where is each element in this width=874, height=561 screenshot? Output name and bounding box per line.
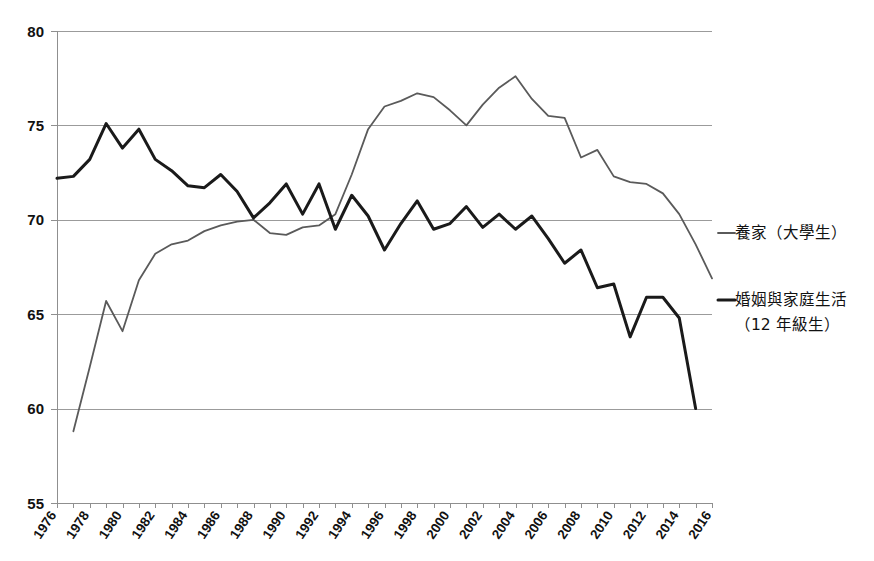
line-chart: 807570656055 197619781980198219841986198… (0, 0, 874, 561)
x-tick-label: 1992 (292, 508, 321, 541)
x-tick-label: 2012 (620, 508, 649, 541)
data-series-layer (57, 76, 712, 431)
gridlines (51, 32, 712, 504)
x-tick-label: 1986 (194, 508, 224, 542)
chart-canvas: 807570656055 197619781980198219841986198… (0, 0, 874, 561)
x-tick-label: 2008 (554, 508, 584, 542)
series-line-0 (73, 76, 712, 431)
x-tick-label: 1994 (325, 508, 355, 542)
legend-label: （12 年級生） (735, 316, 840, 334)
y-tick-label: 65 (27, 306, 44, 323)
x-tick-label: 2014 (652, 508, 682, 542)
x-tick-label: 2000 (423, 508, 452, 541)
x-axis-tick-labels: 1976197819801982198419861988199019921994… (30, 508, 715, 542)
x-tick-label: 2016 (685, 508, 715, 542)
axis-lines (57, 31, 712, 504)
x-tick-label: 1984 (161, 508, 191, 542)
x-tick-label: 2010 (587, 508, 616, 541)
x-tick-label: 2004 (489, 508, 519, 542)
x-tick-label: 2002 (456, 508, 485, 541)
chart-legend: 養家（大學生）婚姻與家庭生活（12 年級生） (718, 223, 847, 334)
x-tick-label: 1978 (63, 508, 93, 542)
legend-label: 養家（大學生） (735, 223, 847, 242)
x-tick-label: 1990 (259, 508, 288, 541)
y-axis-tick-labels: 807570656055 (27, 23, 44, 512)
y-tick-label: 80 (27, 23, 44, 40)
x-tick-label: 1982 (128, 508, 157, 541)
series-line-1 (57, 124, 696, 409)
x-tick-label: 1980 (96, 508, 125, 541)
legend-label: 婚姻與家庭生活 (735, 291, 847, 309)
x-tick-label: 1976 (30, 508, 60, 542)
x-tick-label: 1996 (358, 508, 388, 542)
x-tick-label: 1998 (390, 508, 420, 542)
x-tick-label: 1988 (227, 508, 257, 542)
x-tick-label: 2006 (521, 508, 551, 542)
y-tick-label: 55 (27, 495, 44, 512)
y-tick-label: 60 (27, 400, 44, 417)
y-tick-label: 75 (27, 117, 44, 134)
y-tick-label: 70 (27, 211, 44, 228)
